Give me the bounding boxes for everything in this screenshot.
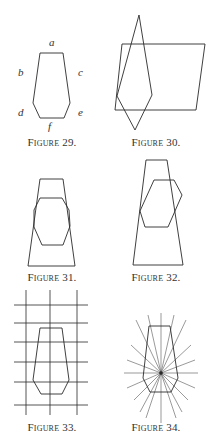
figure-31-trapezoid <box>28 179 75 266</box>
label-e: e <box>78 106 83 118</box>
figure-33-polygon <box>33 328 69 394</box>
label-d: d <box>18 106 24 118</box>
caption-figure-31: Figure 31. <box>0 271 104 283</box>
figures-canvas <box>0 0 208 445</box>
figure-34-rays <box>124 313 198 423</box>
figure-30-kite <box>117 15 152 130</box>
label-f: f <box>48 120 51 132</box>
figure-34-center <box>160 372 163 375</box>
figure-31-inner-polygon <box>34 198 70 245</box>
caption-figure-32: Figure 32. <box>104 271 208 283</box>
label-c: c <box>78 66 83 78</box>
figure-29-polygon <box>33 53 70 118</box>
figure-33-grid <box>14 290 88 415</box>
caption-figure-34: Figure 34. <box>104 421 208 433</box>
caption-figure-33: Figure 33. <box>0 421 104 433</box>
figure-34-polygon <box>143 326 178 392</box>
caption-figure-29: Figure 29. <box>0 136 104 148</box>
label-a: a <box>49 36 55 48</box>
caption-figure-30: Figure 30. <box>104 136 208 148</box>
label-b: b <box>18 66 24 78</box>
